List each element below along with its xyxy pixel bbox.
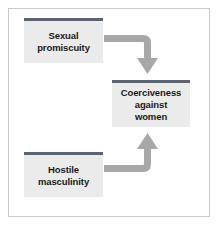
node-hostile-masculinity: Hostile masculinity [24,152,103,197]
node-sexual-promiscuity-label: Sexual promiscuity [33,30,94,54]
arrow-masculinity-to-coerciveness-icon [104,133,158,172]
diagram-canvas: Sexual promiscuity Coerciveness against … [0,0,218,225]
node-hostile-masculinity-label: Hostile masculinity [34,164,93,188]
figure-container: Sexual promiscuity Coerciveness against … [0,0,218,225]
node-coerciveness-against-women-label: Coerciveness against women [117,87,186,123]
arrow-promiscuity-to-coerciveness-icon [104,35,158,74]
node-coerciveness-against-women: Coerciveness against women [112,80,190,127]
node-sexual-promiscuity: Sexual promiscuity [24,18,103,63]
